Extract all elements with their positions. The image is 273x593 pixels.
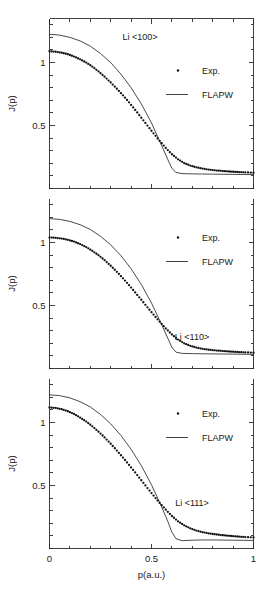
exp-data-point: [50, 406, 52, 408]
exp-data-point: [57, 237, 59, 239]
exp-data-point: [205, 348, 207, 350]
exp-data-point: [207, 349, 209, 351]
exp-data-point: [63, 238, 65, 240]
exp-data-point: [252, 536, 254, 538]
exp-data-point: [197, 347, 199, 349]
exp-data-point: [112, 267, 114, 269]
exp-data-point: [234, 351, 236, 353]
x-tick-label: 0.5: [145, 553, 158, 564]
legend: Exp.FLAPW: [166, 233, 234, 267]
exp-data-point: [250, 171, 252, 173]
exp-data-point: [61, 237, 63, 239]
exp-data-point: [67, 410, 69, 412]
exp-data-point: [205, 168, 207, 170]
exp-data-point: [214, 349, 216, 351]
exp-data-point: [130, 466, 132, 468]
exp-data-point: [181, 161, 183, 163]
exp-data-point: [236, 351, 238, 353]
exp-data-point: [108, 79, 110, 81]
exp-data-point: [128, 284, 130, 286]
exp-data-point: [57, 407, 59, 409]
exp-data-point: [232, 535, 234, 537]
exp-data-point: [118, 90, 120, 92]
legend-exp-label: Exp.: [202, 66, 220, 76]
exp-data-point: [171, 333, 173, 335]
exp-data-point: [69, 239, 71, 241]
exp-data-point: [177, 158, 179, 160]
exp-data-point: [163, 325, 165, 327]
exp-data-point: [193, 529, 195, 531]
exp-data-point: [144, 484, 146, 486]
exp-data-point: [54, 407, 56, 409]
exp-data-point: [140, 479, 142, 481]
exp-data-point: [73, 55, 75, 57]
exp-data-point: [126, 461, 128, 463]
exp-data-point: [67, 239, 69, 241]
exp-data-point: [95, 253, 97, 255]
exp-data-point: [118, 273, 120, 275]
exp-data-point: [238, 536, 240, 538]
exp-data-point: [181, 523, 183, 525]
exp-data-point: [247, 351, 249, 353]
exp-data-point: [146, 306, 148, 308]
y-tick-label: 0.5: [32, 480, 45, 491]
exp-data-point: [150, 130, 152, 132]
exp-data-point: [199, 167, 201, 169]
exp-data-point: [185, 343, 187, 345]
exp-data-point: [97, 430, 99, 432]
exp-data-point: [218, 350, 220, 352]
exp-data-point: [238, 351, 240, 353]
panel-title: Li <110>: [175, 332, 209, 342]
exp-data-point: [50, 236, 52, 238]
exp-data-point: [71, 412, 73, 414]
exp-data-point: [212, 533, 214, 535]
exp-data-point: [124, 97, 126, 99]
exp-data-point: [175, 156, 177, 158]
exp-data-point: [191, 528, 193, 530]
exp-data-point: [79, 416, 81, 418]
exp-data-point: [247, 171, 249, 173]
exp-data-point: [138, 477, 140, 479]
exp-data-point: [163, 506, 165, 508]
exp-data-point: [222, 350, 224, 352]
exp-data-point: [183, 162, 185, 164]
exp-data-point: [105, 77, 107, 79]
exp-data-point: [154, 316, 156, 318]
exp-data-point: [110, 265, 112, 267]
exp-data-point: [85, 61, 87, 63]
exp-data-point: [179, 521, 181, 523]
exp-data-point: [159, 502, 161, 504]
exp-data-point: [161, 142, 163, 144]
exp-data-point: [48, 406, 50, 408]
exp-data-point: [146, 124, 148, 126]
exp-data-point: [191, 165, 193, 167]
exp-data-point: [89, 424, 91, 426]
exp-data-point: [236, 535, 238, 537]
exp-data-point: [69, 54, 71, 56]
exp-data-point: [114, 269, 116, 271]
exp-data-point: [103, 436, 105, 438]
exp-data-point: [140, 299, 142, 301]
exp-data-point: [148, 489, 150, 491]
exp-data-point: [150, 492, 152, 494]
legend-exp-marker: [177, 412, 179, 414]
exp-data-point: [122, 456, 124, 458]
exp-data-point: [156, 137, 158, 139]
exp-data-point: [136, 111, 138, 113]
y-tick-label: 1: [40, 237, 45, 248]
exp-data-point: [230, 535, 232, 537]
exp-data-point: [95, 429, 97, 431]
exp-data-point: [108, 440, 110, 442]
exp-data-point: [226, 535, 228, 537]
y-tick-label: 1: [40, 57, 45, 68]
exp-data-point: [105, 438, 107, 440]
legend: Exp.FLAPW: [166, 66, 234, 100]
exp-data-point: [130, 286, 132, 288]
exp-data-point: [222, 534, 224, 536]
exp-data-point: [75, 414, 77, 416]
exp-data-point: [126, 99, 128, 101]
exp-data-point: [57, 51, 59, 53]
exp-data-point: [220, 170, 222, 172]
x-tick-label: 0: [47, 553, 52, 564]
exp-data-point: [152, 132, 154, 134]
